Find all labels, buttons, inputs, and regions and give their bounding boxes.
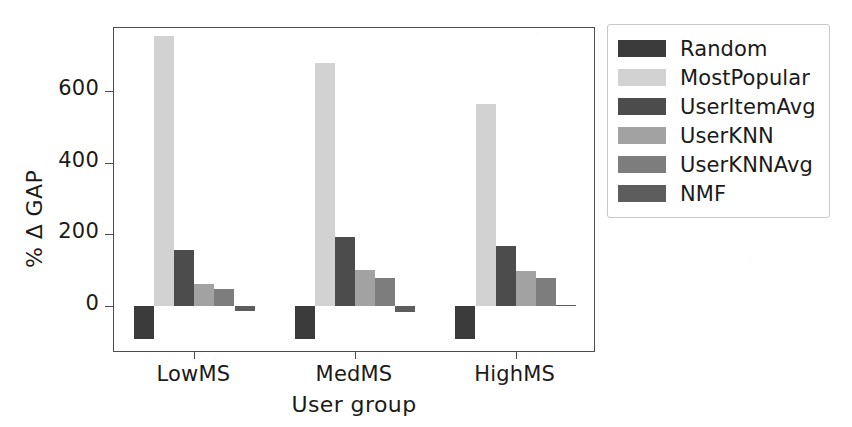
x-axis-tick xyxy=(355,351,356,359)
legend-label: UserKNNAvg xyxy=(680,153,813,177)
legend-label: Random xyxy=(680,37,768,61)
plot-area xyxy=(113,27,595,352)
bar xyxy=(395,306,415,312)
legend: RandomMostPopularUserItemAvgUserKNNUserK… xyxy=(607,24,830,218)
bar xyxy=(335,237,355,306)
y-axis-title: % Δ GAP xyxy=(22,169,47,267)
legend-item: UserItemAvg xyxy=(618,92,816,121)
legend-item: MostPopular xyxy=(618,63,816,92)
legend-item: UserKNNAvg xyxy=(618,150,816,179)
bar xyxy=(174,250,194,306)
x-axis-tick-label: HighMS xyxy=(435,362,595,386)
y-axis-tick xyxy=(105,163,114,164)
bar xyxy=(536,278,556,307)
bar xyxy=(476,104,496,307)
y-axis-tick-label: 0 xyxy=(39,291,99,315)
x-axis-tick-label: LowMS xyxy=(113,362,273,386)
x-axis-tick xyxy=(194,351,195,359)
y-axis-tick xyxy=(105,91,114,92)
bar xyxy=(134,306,154,339)
y-axis-tick-label: 200 xyxy=(39,219,99,243)
legend-label: NMF xyxy=(680,182,726,206)
bar xyxy=(355,270,375,306)
legend-swatch xyxy=(618,156,666,173)
x-axis-tick-label: MedMS xyxy=(274,362,434,386)
bar xyxy=(235,306,255,310)
bar xyxy=(214,289,234,306)
bar xyxy=(556,305,576,306)
bar xyxy=(375,278,395,307)
bar xyxy=(194,284,214,306)
bar xyxy=(496,246,516,306)
legend-swatch xyxy=(618,127,666,144)
legend-item: UserKNN xyxy=(618,121,816,150)
y-axis-tick-label: 600 xyxy=(39,76,99,100)
legend-swatch xyxy=(618,98,666,115)
legend-item: NMF xyxy=(618,179,816,208)
legend-label: UserKNN xyxy=(680,124,774,148)
bar xyxy=(455,306,475,339)
bar-chart-figure: 0200400600 % Δ GAP LowMSMedMSHighMS User… xyxy=(0,0,852,427)
legend-swatch xyxy=(618,185,666,202)
bar xyxy=(154,36,174,306)
bars-layer xyxy=(114,28,594,351)
y-axis-tick xyxy=(105,234,114,235)
x-axis-tick xyxy=(516,351,517,359)
bar xyxy=(315,63,335,306)
legend-item: Random xyxy=(618,34,816,63)
bar xyxy=(516,271,536,306)
legend-swatch xyxy=(618,40,666,57)
legend-label: UserItemAvg xyxy=(680,95,816,119)
legend-swatch xyxy=(618,69,666,86)
x-axis-title: User group xyxy=(113,392,595,417)
legend-label: MostPopular xyxy=(680,66,810,90)
y-axis-tick-label: 400 xyxy=(39,148,99,172)
bar xyxy=(295,306,315,339)
y-axis-tick xyxy=(105,306,114,307)
